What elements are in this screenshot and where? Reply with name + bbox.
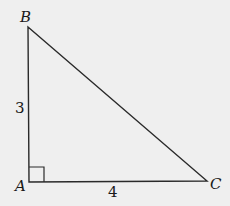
vertex-label-a: A <box>13 177 26 195</box>
side-label-ab: 3 <box>15 99 25 117</box>
vertex-label-b: B <box>19 8 31 26</box>
background <box>0 0 230 206</box>
side-label-ac: 4 <box>108 183 118 201</box>
triangle-diagram: B 3 A 4 C <box>0 0 230 206</box>
vertex-label-c: C <box>210 175 222 193</box>
